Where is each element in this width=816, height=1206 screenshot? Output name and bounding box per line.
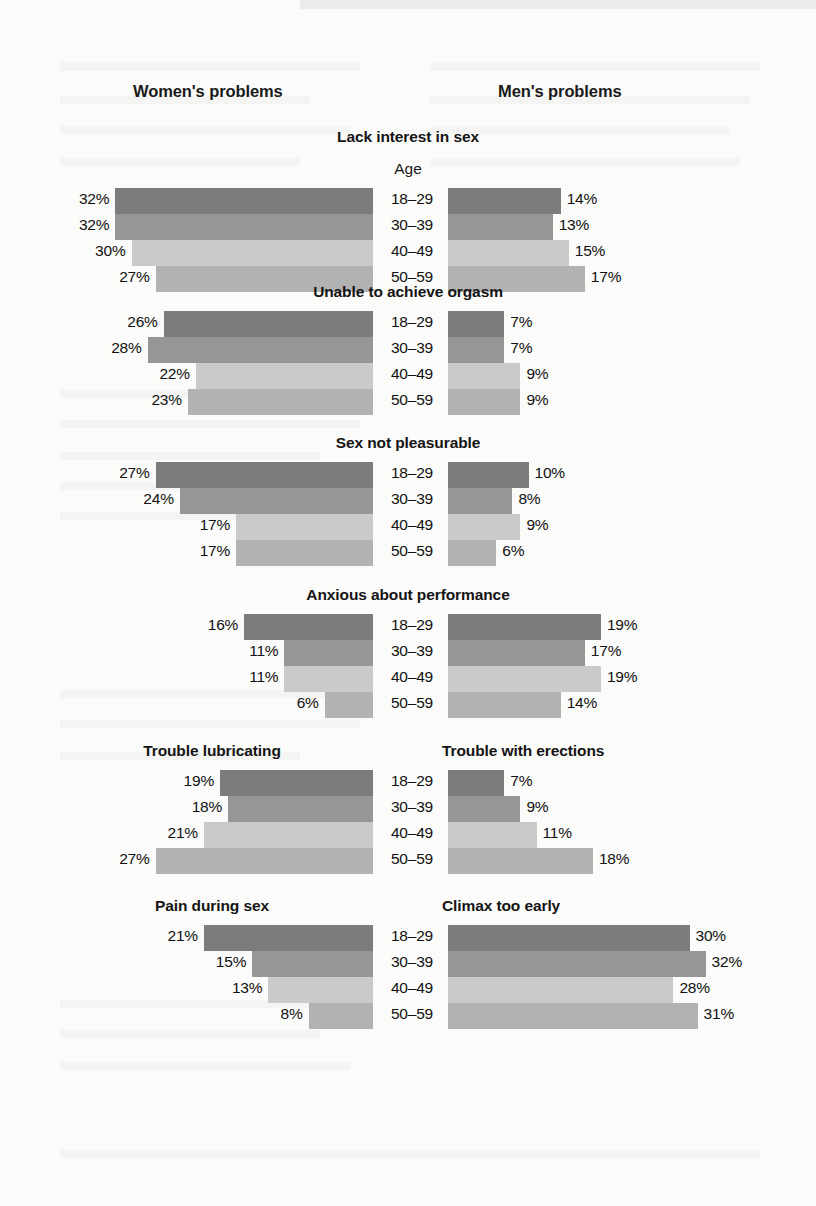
bar-men: [448, 925, 690, 951]
bar-women: [115, 214, 373, 240]
bar-value-label-men: 15%: [575, 242, 605, 260]
chart-row: 21%40–4911%: [0, 822, 816, 848]
age-group-label: 30–39: [376, 490, 448, 508]
bar-value-label-women: 32%: [57, 190, 109, 208]
bar-women: [204, 925, 373, 951]
bar-value-label-men: 14%: [567, 694, 597, 712]
panel-title-right: Climax too early: [424, 897, 816, 915]
bar-value-label-men: 14%: [567, 190, 597, 208]
bar-value-label-men: 6%: [502, 542, 524, 560]
chart-row: 27%18–2910%: [0, 462, 816, 488]
age-group-label: 50–59: [376, 694, 448, 712]
bar-value-label-women: 27%: [98, 850, 150, 868]
chart-row: 8%50–5931%: [0, 1003, 816, 1029]
bar-value-label-men: 9%: [526, 516, 548, 534]
bar-men: [448, 770, 504, 796]
bar-women: [252, 951, 373, 977]
age-group-label: 40–49: [376, 365, 448, 383]
bar-value-label-women: 26%: [106, 313, 158, 331]
panel-rows: 16%18–2919%11%30–3917%11%40–4919%6%50–59…: [0, 614, 816, 718]
column-header-women: Women's problems: [133, 82, 283, 101]
bar-value-label-women: 22%: [138, 365, 190, 383]
bar-value-label-women: 30%: [74, 242, 126, 260]
bar-value-label-women: 18%: [170, 798, 222, 816]
bar-value-label-women: 15%: [194, 953, 246, 971]
panel-rows: 27%18–2910%24%30–398%17%40–499%17%50–596…: [0, 462, 816, 566]
bar-women: [180, 488, 373, 514]
chart-row: 26%18–297%: [0, 311, 816, 337]
bar-value-label-men: 13%: [559, 216, 589, 234]
bar-men: [448, 796, 520, 822]
age-group-label: 40–49: [376, 668, 448, 686]
bar-women: [156, 848, 373, 874]
bar-men: [448, 614, 601, 640]
chart-row: 17%40–499%: [0, 514, 816, 540]
age-axis-label: Age: [0, 160, 816, 178]
bar-value-label-women: 17%: [178, 516, 230, 534]
bar-value-label-women: 32%: [57, 216, 109, 234]
panel-rows: 19%18–297%18%30–399%21%40–4911%27%50–591…: [0, 770, 816, 874]
bar-value-label-men: 9%: [526, 798, 548, 816]
bar-men: [448, 692, 561, 718]
bar-women: [284, 640, 373, 666]
chart-row: 27%50–5918%: [0, 848, 816, 874]
diverging-bar-chart: Women's problems Men's problems Lack int…: [0, 0, 816, 1206]
panel-rows: 32%18–2914%32%30–3913%30%40–4915%27%50–5…: [0, 188, 816, 292]
bar-value-label-men: 7%: [510, 339, 532, 357]
bar-men: [448, 977, 673, 1003]
chart-row: 23%50–599%: [0, 389, 816, 415]
age-group-label: 40–49: [376, 979, 448, 997]
panel-rows: 21%18–2930%15%30–3932%13%40–4928%8%50–59…: [0, 925, 816, 1029]
bar-men: [448, 188, 561, 214]
bar-value-label-men: 19%: [607, 668, 637, 686]
age-group-label: 40–49: [376, 824, 448, 842]
chart-row: 30%40–4915%: [0, 240, 816, 266]
bar-men: [448, 822, 537, 848]
bar-men: [448, 640, 585, 666]
chart-row: 32%18–2914%: [0, 188, 816, 214]
bar-women: [115, 188, 373, 214]
bar-value-label-women: 27%: [98, 464, 150, 482]
bar-value-label-women: 24%: [122, 490, 174, 508]
bar-value-label-men: 8%: [518, 490, 540, 508]
bar-value-label-men: 10%: [535, 464, 565, 482]
bar-value-label-men: 28%: [679, 979, 709, 997]
bar-value-label-women: 23%: [130, 391, 182, 409]
age-group-label: 30–39: [376, 339, 448, 357]
bar-value-label-men: 18%: [599, 850, 629, 868]
bar-value-label-women: 6%: [267, 694, 319, 712]
bar-value-label-women: 8%: [251, 1005, 303, 1023]
age-group-label: 30–39: [376, 216, 448, 234]
bar-value-label-women: 21%: [146, 824, 198, 842]
bar-women: [236, 540, 373, 566]
panel-title: Sex not pleasurable: [0, 434, 816, 452]
chart-row: 24%30–398%: [0, 488, 816, 514]
bar-value-label-men: 30%: [696, 927, 726, 945]
age-group-label: 18–29: [376, 772, 448, 790]
bar-women: [164, 311, 373, 337]
panel-title-right: Trouble with erections: [424, 742, 816, 760]
bar-men: [448, 848, 593, 874]
bar-men: [448, 488, 512, 514]
bar-value-label-men: 19%: [607, 616, 637, 634]
age-group-label: 18–29: [376, 616, 448, 634]
bar-value-label-men: 11%: [543, 824, 572, 842]
panel-title-left: Pain during sex: [0, 897, 424, 915]
bar-women: [325, 692, 373, 718]
panel-title-left: Trouble lubricating: [0, 742, 424, 760]
age-group-label: 50–59: [376, 1005, 448, 1023]
bar-value-label-women: 16%: [186, 616, 238, 634]
bar-men: [448, 389, 520, 415]
chart-row: 19%18–297%: [0, 770, 816, 796]
chart-row: 15%30–3932%: [0, 951, 816, 977]
bar-value-label-men: 32%: [712, 953, 742, 971]
bar-value-label-women: 11%: [226, 668, 278, 686]
bar-value-label-women: 21%: [146, 927, 198, 945]
bar-men: [448, 1003, 698, 1029]
bar-men: [448, 240, 569, 266]
panel-rows: 26%18–297%28%30–397%22%40–499%23%50–599%: [0, 311, 816, 415]
bar-women: [284, 666, 373, 692]
bar-women: [132, 240, 374, 266]
chart-row: 11%40–4919%: [0, 666, 816, 692]
chart-row: 13%40–4928%: [0, 977, 816, 1003]
